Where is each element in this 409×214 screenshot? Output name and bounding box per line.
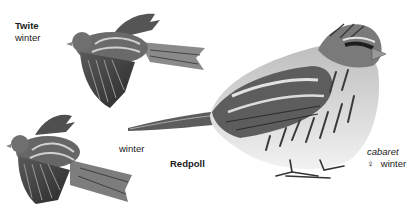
redpoll-variant-label: winter <box>381 158 406 169</box>
bird-illustrations <box>0 0 409 214</box>
twite-variant-top-label: winter <box>15 32 40 43</box>
twite-flight-upper-illustration <box>66 14 205 108</box>
twite-flight-lower-illustration <box>6 115 132 204</box>
redpoll-sex-variant-label: ♀ winter <box>367 158 406 169</box>
female-symbol-icon: ♀ <box>367 158 374 169</box>
species-name-redpoll: Redpoll <box>170 158 205 169</box>
species-name-twite: Twite <box>15 20 39 31</box>
twite-variant-bottom-label: winter <box>119 143 144 154</box>
redpoll-subspecies-label: cabaret <box>367 146 399 157</box>
